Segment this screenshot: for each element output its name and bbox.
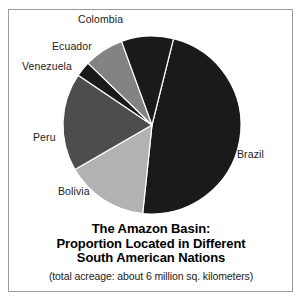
chart-title: The Amazon Basin: Proportion Located in … [10, 222, 292, 266]
pie-label-ecuador: Ecuador [52, 40, 92, 52]
pie-label-peru: Peru [33, 131, 56, 143]
chart-caption: The Amazon Basin: Proportion Located in … [10, 222, 292, 282]
chart-subtitle: (total acreage: about 6 million sq. kilo… [10, 270, 292, 282]
pie-label-brazil: Brazil [237, 148, 264, 160]
chart-title-line-3: South American Nations [10, 251, 292, 266]
chart-title-line-2: Proportion Located in Different [10, 237, 292, 252]
pie-label-venezuela: Venezuela [22, 60, 72, 72]
pie-chart-figure: Colombia Ecuador Venezuela Peru Bolivia … [0, 0, 302, 308]
pie-label-colombia: Colombia [78, 13, 123, 25]
pie-label-bolivia: Bolivia [58, 185, 90, 197]
chart-title-line-1: The Amazon Basin: [10, 222, 292, 237]
